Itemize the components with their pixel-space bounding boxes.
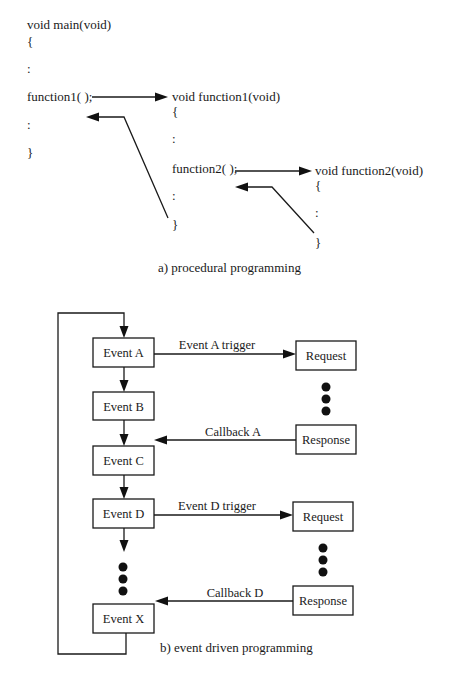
flow-arrow-d-to-continuation <box>120 528 129 552</box>
function2-signature: void function2(void) <box>315 163 423 178</box>
flow-arrow-a-to-b <box>120 367 129 392</box>
flow-arrow-c-to-d <box>120 475 129 499</box>
function1-open-brace: { <box>172 104 178 119</box>
event-box-c: Event C <box>93 446 154 475</box>
event-a-trigger-arrow: Event A trigger <box>154 338 296 359</box>
dot-icon <box>119 575 128 584</box>
main-function-block: void main(void) { : function1( ); : } <box>27 17 111 160</box>
arrowhead-down-icon <box>120 540 129 552</box>
event-box-x: Event X <box>93 604 154 633</box>
arrowhead-right-icon <box>283 350 296 359</box>
event-continuation-dots <box>119 563 128 596</box>
event-c-label: Event C <box>103 454 144 468</box>
main-open-brace: { <box>27 34 33 49</box>
dot-icon <box>322 395 331 404</box>
procedural-caption: a) procedural programming <box>158 260 301 275</box>
main-call-function1: function1( ); <box>27 89 92 104</box>
event-x-label: Event X <box>103 612 144 626</box>
response-d-label: Response <box>299 594 347 608</box>
request-box-d: Request <box>293 502 353 531</box>
procedural-diagram: void main(void) { : function1( ); : } vo… <box>27 17 423 275</box>
dot-icon <box>119 563 128 572</box>
handler-a-dots <box>322 383 331 416</box>
programming-paradigms-diagram: void main(void) { : function1( ); : } vo… <box>0 0 464 676</box>
request-d-label: Request <box>303 510 344 524</box>
dot-icon <box>319 568 328 577</box>
function1-ellipsis-2: : <box>172 188 176 203</box>
request-a-label: Request <box>306 349 347 363</box>
arrowhead-left-icon <box>155 597 168 606</box>
handler-a: Event A trigger Request Response Callbac… <box>154 338 356 454</box>
function1-ellipsis-1: : <box>172 131 176 146</box>
function2-block: void function2(void) { : } <box>315 163 423 250</box>
arrowhead-down-icon <box>120 487 129 499</box>
function1-call-function2: function2( ); <box>172 161 237 176</box>
function1-close-brace: } <box>172 217 178 232</box>
callback-d-label: Callback D <box>207 586 264 600</box>
arrowhead-right-icon <box>280 511 293 520</box>
event-a-trigger-label: Event A trigger <box>179 338 256 352</box>
handler-d: Event D trigger Request Response Callbac… <box>154 499 353 615</box>
response-box-d: Response <box>293 586 353 615</box>
function2-close-brace: } <box>315 235 321 250</box>
arrowhead-down-icon <box>120 326 129 338</box>
event-driven-caption: b) event driven programming <box>160 640 313 655</box>
event-a-label: Event A <box>103 346 144 360</box>
return-arrow-function1-to-main <box>86 113 168 219</box>
dot-icon <box>322 383 331 392</box>
event-box-a: Event A <box>93 338 154 367</box>
main-ellipsis-1: : <box>27 61 31 76</box>
dot-icon <box>319 544 328 553</box>
response-a-label: Response <box>302 433 350 447</box>
callback-a-label: Callback A <box>205 425 261 439</box>
arrowhead-left-icon <box>154 436 167 445</box>
arrowhead-left-icon <box>86 113 99 122</box>
event-box-b: Event B <box>93 392 154 420</box>
dot-icon <box>319 556 328 565</box>
event-d-label: Event D <box>103 507 144 521</box>
callback-a-arrow: Callback A <box>154 425 296 445</box>
event-d-trigger-label: Event D trigger <box>178 499 257 513</box>
arrowhead-right-icon <box>299 167 312 176</box>
arrowhead-left-icon <box>235 183 248 192</box>
call-arrow-main-to-function1 <box>92 93 168 102</box>
arrowhead-down-icon <box>120 434 129 446</box>
main-ellipsis-2: : <box>27 117 31 132</box>
response-box-a: Response <box>296 425 356 454</box>
function1-block: void function1(void) { : function2( ); :… <box>172 89 280 232</box>
flow-arrow-b-to-c <box>120 420 129 446</box>
arrowhead-right-icon <box>155 93 168 102</box>
handler-d-dots <box>319 544 328 577</box>
main-close-brace: } <box>27 145 33 160</box>
function1-signature: void function1(void) <box>172 89 280 104</box>
return-arrow-function2-to-function1 <box>235 183 314 234</box>
callback-d-arrow: Callback D <box>155 586 293 606</box>
event-d-trigger-arrow: Event D trigger <box>154 499 293 520</box>
dot-icon <box>322 407 331 416</box>
request-box-a: Request <box>296 341 356 370</box>
event-driven-diagram: Event A Event B Event C Event D Event X <box>58 313 356 655</box>
function2-open-brace: { <box>315 178 321 193</box>
event-box-d: Event D <box>93 499 154 528</box>
event-b-label: Event B <box>103 400 144 414</box>
main-signature: void main(void) <box>27 17 111 32</box>
function2-ellipsis-1: : <box>315 205 319 220</box>
call-arrow-function1-to-function2 <box>235 167 312 176</box>
arrowhead-down-icon <box>120 380 129 392</box>
dot-icon <box>119 587 128 596</box>
